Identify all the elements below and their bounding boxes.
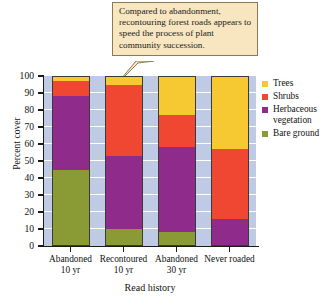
callout-box: Compared to abandonment, recontouring fo… — [112, 2, 258, 56]
x-axis-tick — [176, 247, 177, 252]
x-axis-tick — [70, 247, 71, 252]
y-axis-tick — [38, 228, 43, 229]
bar-segment-trees — [105, 76, 143, 85]
plot-area — [44, 76, 256, 246]
bar-segment-trees — [52, 76, 90, 81]
bar-segment-shrubs — [52, 81, 90, 96]
y-axis-tick — [38, 143, 43, 144]
legend-swatch-icon — [262, 131, 268, 137]
legend-swatch-icon — [262, 107, 268, 113]
callout-text: Compared to abandonment, recontouring fo… — [119, 6, 251, 50]
y-axis-tick-label: 70 — [8, 122, 34, 132]
legend-item-label: Trees — [273, 78, 334, 89]
y-axis-tick — [38, 194, 43, 195]
y-axis-tick — [38, 109, 43, 110]
y-axis-tick — [38, 75, 43, 76]
y-axis-tick — [38, 177, 43, 178]
legend-item-bare-ground[interactable]: Bare ground — [262, 128, 334, 139]
y-axis-tick — [38, 126, 43, 127]
bar-segment-bare-ground — [52, 170, 90, 247]
bar-never-roaded[interactable] — [211, 76, 249, 246]
x-axis-line — [43, 246, 259, 247]
y-axis-tick-label: 0 — [8, 241, 34, 251]
bar-recontoured-10-yr[interactable] — [105, 76, 143, 246]
legend-item-trees[interactable]: Trees — [262, 78, 334, 89]
y-axis-tick-label: 90 — [8, 88, 34, 98]
legend-swatch-icon — [262, 81, 268, 87]
x-axis-tick — [123, 247, 124, 252]
bar-segment-trees — [158, 76, 196, 115]
bar-segment-shrubs — [105, 85, 143, 156]
y-axis-tick — [38, 92, 43, 93]
bar-segment-trees — [211, 76, 249, 149]
y-axis-tick — [38, 245, 43, 246]
bar-segment-bare-ground — [105, 229, 143, 246]
legend-swatch-icon — [262, 94, 268, 100]
bar-segment-shrubs — [211, 149, 249, 219]
y-axis-tick-label: 30 — [8, 190, 34, 200]
legend-item-label: Herbaceous vegetation — [273, 104, 334, 127]
x-axis-title: Read history — [44, 282, 256, 293]
bar-segment-bare-ground — [158, 232, 196, 246]
y-axis-tick — [38, 211, 43, 212]
x-axis-tick-label-line2: 30 yr — [138, 265, 216, 276]
y-axis-tick-label: 10 — [8, 224, 34, 234]
figure: Compared to abandonment, recontouring fo… — [0, 0, 334, 306]
legend-item-herbaceous-vegetation[interactable]: Herbaceous vegetation — [262, 104, 334, 127]
bar-segment-herbaceous-vegetation — [52, 96, 90, 169]
legend: TreesShrubsHerbaceous vegetationBare gro… — [262, 78, 334, 141]
y-axis-tick-label: 20 — [8, 207, 34, 217]
y-axis-tick-label: 80 — [8, 105, 34, 115]
bar-segment-herbaceous-vegetation — [105, 156, 143, 229]
bar-segment-herbaceous-vegetation — [158, 147, 196, 232]
bar-abandoned-30-yr[interactable] — [158, 76, 196, 246]
x-axis-tick — [229, 247, 230, 252]
bar-segment-shrubs — [158, 115, 196, 147]
y-axis-tick — [38, 160, 43, 161]
legend-item-label: Bare ground — [273, 128, 334, 139]
y-axis-tick-label: 50 — [8, 156, 34, 166]
bar-abandoned-10-yr[interactable] — [52, 76, 90, 246]
y-axis-tick-label: 40 — [8, 173, 34, 183]
y-axis-tick-label: 100 — [8, 71, 34, 81]
y-axis-tick-label: 60 — [8, 139, 34, 149]
x-axis-tick-label-line1: Never roaded — [204, 254, 254, 264]
x-axis-tick-label: Never roaded — [191, 254, 269, 265]
legend-item-shrubs[interactable]: Shrubs — [262, 91, 334, 102]
bar-segment-herbaceous-vegetation — [211, 219, 249, 246]
legend-item-label: Shrubs — [273, 91, 334, 102]
